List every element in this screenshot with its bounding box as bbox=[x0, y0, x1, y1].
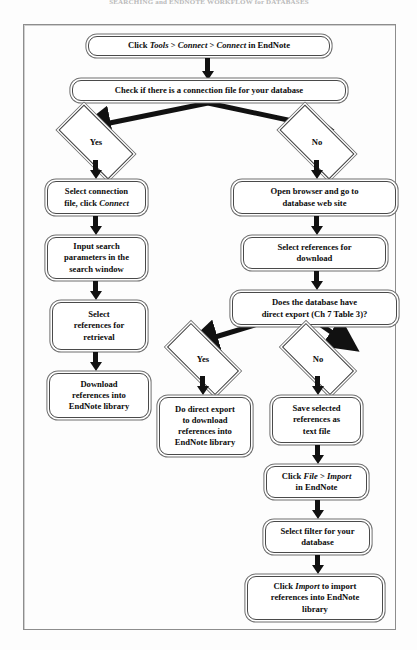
decision-yes-direct-export[interactable]: Yes bbox=[170, 343, 236, 375]
arrow-n7-n8 bbox=[314, 216, 319, 227]
node-label: Selectreferences forretrieval bbox=[74, 309, 125, 343]
arrow-n8-n9 bbox=[314, 271, 319, 282]
node-open-browser[interactable]: Open browser and go todatabase web site bbox=[233, 181, 396, 214]
flowchart-page: SEARCHING and ENDNOTE WORKFLOW for DATAB… bbox=[0, 0, 417, 650]
node-label: Input searchparameters in thesearch wind… bbox=[64, 241, 129, 275]
arrow-n11-n12 bbox=[315, 445, 320, 456]
node-download-references[interactable]: Downloadreferences intoEndNote library bbox=[49, 373, 149, 418]
decision-no-connection[interactable]: No bbox=[283, 125, 351, 159]
arrow-n3-n4 bbox=[93, 216, 98, 227]
node-click-tools-connect[interactable]: Click Tools > Connect > Connect in EndNo… bbox=[88, 36, 330, 56]
arrow-yes-n3 bbox=[93, 160, 98, 171]
node-label: Check if there is a connection file for … bbox=[115, 85, 303, 96]
node-does-database-have-direct-export[interactable]: Does the database havedirect export (Ch … bbox=[232, 292, 397, 325]
node-label: Save selectedreferences astext file bbox=[293, 403, 341, 437]
arrow-yes2-n10 bbox=[200, 376, 205, 387]
node-label: Select references fordownload bbox=[277, 242, 351, 264]
decision-label: No bbox=[283, 125, 351, 159]
node-select-filter[interactable]: Select filter for yourdatabase bbox=[265, 521, 370, 553]
node-label: Does the database havedirect export (Ch … bbox=[262, 297, 368, 319]
node-do-direct-export[interactable]: Do direct exportto downloadreferences in… bbox=[159, 397, 251, 455]
node-select-connection-file[interactable]: Select connectionfile, click Connect bbox=[47, 181, 146, 214]
node-label: Downloadreferences intoEndNote library bbox=[69, 379, 129, 413]
node-click-file-import[interactable]: Click File > Importin EndNote bbox=[266, 466, 367, 498]
node-select-references-retrieval[interactable]: Selectreferences forretrieval bbox=[52, 302, 146, 350]
arrow-no2-n11 bbox=[315, 376, 320, 387]
arrow-n5-n6 bbox=[93, 352, 98, 363]
node-check-connection-file[interactable]: Check if there is a connection file for … bbox=[72, 80, 346, 101]
node-label: Do direct exportto downloadreferences in… bbox=[175, 404, 235, 449]
decision-label: Yes bbox=[170, 343, 236, 375]
node-label: Open browser and go todatabase web site bbox=[270, 186, 358, 208]
arrow-n4-n5 bbox=[93, 281, 98, 292]
node-save-selected-references[interactable]: Save selectedreferences astext file bbox=[272, 397, 361, 443]
node-input-search-parameters[interactable]: Input searchparameters in thesearch wind… bbox=[47, 237, 146, 279]
decision-label: Yes bbox=[62, 125, 130, 159]
node-label: Select filter for yourdatabase bbox=[281, 526, 355, 548]
arrow-n1-n2 bbox=[205, 58, 210, 72]
node-label: Click Tools > Connect > Connect in EndNo… bbox=[128, 40, 290, 51]
node-click-import[interactable]: Click Import to importreferences into En… bbox=[247, 576, 383, 620]
arrow-no-n7 bbox=[314, 160, 319, 171]
arrow-n13-n14 bbox=[315, 555, 320, 566]
node-select-references-download[interactable]: Select references fordownload bbox=[243, 237, 386, 269]
node-label: Select connectionfile, click Connect bbox=[64, 186, 129, 208]
page-caption: SEARCHING and ENDNOTE WORKFLOW for DATAB… bbox=[34, 0, 384, 7]
node-label: Click File > Importin EndNote bbox=[282, 471, 352, 493]
arrow-n12-n13 bbox=[315, 500, 320, 511]
decision-label: No bbox=[285, 343, 351, 375]
node-label: Click Import to importreferences into En… bbox=[271, 581, 359, 615]
decision-no-direct-export[interactable]: No bbox=[285, 343, 351, 375]
decision-yes-connection[interactable]: Yes bbox=[62, 125, 130, 159]
